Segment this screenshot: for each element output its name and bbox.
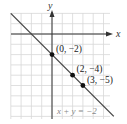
data-point — [50, 52, 55, 57]
data-point — [70, 73, 75, 78]
x-axis-arrow-icon — [106, 32, 113, 37]
y-axis-label: y — [47, 0, 53, 11]
point-label: (3, −5) — [87, 75, 113, 86]
axes: x y — [11, 0, 121, 119]
graph: x y (0, −2)(2, −4)(3, −5) x + y = −2 — [0, 0, 127, 124]
x-axis-label: x — [115, 28, 121, 39]
equation-label: x + y = −2 — [56, 106, 97, 116]
data-point — [81, 83, 86, 88]
point-label: (0, −2) — [56, 44, 82, 55]
